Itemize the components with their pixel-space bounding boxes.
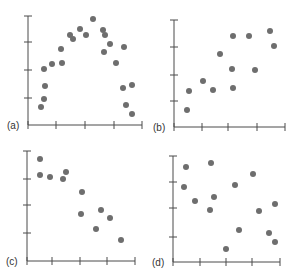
panel-label: (d)	[152, 257, 164, 268]
data-point	[47, 174, 53, 180]
data-point	[250, 171, 256, 177]
data-point	[230, 85, 236, 91]
data-point	[37, 156, 43, 162]
data-point	[230, 33, 236, 39]
data-point	[229, 66, 235, 72]
data-point	[58, 46, 64, 52]
data-point	[232, 182, 238, 188]
data-point	[41, 96, 47, 102]
data-point	[272, 201, 278, 207]
data-point	[63, 169, 69, 175]
data-point	[98, 207, 104, 213]
data-point	[93, 226, 99, 232]
data-point	[60, 176, 66, 182]
data-point	[90, 16, 96, 22]
data-point	[267, 28, 273, 34]
data-point	[246, 33, 252, 39]
data-point	[79, 189, 85, 195]
data-point	[101, 49, 107, 55]
data-point	[217, 51, 223, 57]
data-point	[183, 164, 189, 170]
data-point	[184, 107, 190, 113]
data-point	[271, 43, 277, 49]
scatter-panel-c: (c)	[6, 151, 135, 267]
data-point	[42, 83, 48, 89]
data-point	[102, 32, 108, 38]
data-point	[192, 198, 198, 204]
data-point	[120, 85, 126, 91]
data-point	[78, 211, 84, 217]
data-point	[210, 87, 216, 93]
scatter-panel-d: (d)	[152, 156, 280, 268]
data-point	[107, 215, 113, 221]
data-point	[77, 26, 83, 32]
data-point	[70, 36, 76, 42]
scatterplot-figure: (a) (b) (c) (d)	[0, 0, 299, 271]
panel-label: (c)	[6, 256, 18, 267]
scatter-panel-b: (b)	[153, 20, 285, 133]
data-point	[49, 61, 55, 67]
data-point	[223, 246, 229, 252]
data-point	[272, 239, 278, 245]
data-point	[129, 111, 135, 117]
data-point	[211, 194, 217, 200]
data-point	[83, 32, 89, 38]
data-point	[107, 41, 113, 47]
panel-label: (a)	[7, 120, 19, 131]
data-point	[41, 66, 47, 72]
data-point	[129, 82, 135, 88]
data-point	[252, 67, 258, 73]
data-point	[186, 88, 192, 94]
data-point	[256, 208, 262, 214]
data-point	[266, 230, 272, 236]
data-point	[38, 104, 44, 110]
scatter-panel-a: (a)	[7, 16, 142, 131]
panel-label: (b)	[153, 122, 165, 133]
data-point	[118, 237, 124, 243]
data-point	[208, 160, 214, 166]
data-point	[200, 78, 206, 84]
data-point	[181, 184, 187, 190]
data-point	[113, 60, 119, 66]
data-point	[236, 227, 242, 233]
data-point	[37, 172, 43, 178]
data-point	[59, 60, 65, 66]
data-point	[123, 102, 129, 108]
data-point	[207, 207, 213, 213]
data-point	[121, 44, 127, 50]
